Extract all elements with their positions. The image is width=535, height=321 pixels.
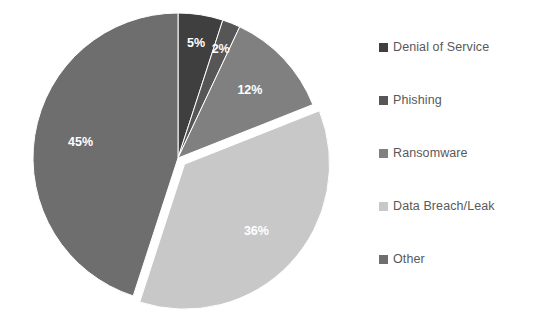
legend-item[interactable]: Data Breach/Leak bbox=[379, 197, 495, 215]
pie-slice-value-label: 12% bbox=[237, 83, 262, 97]
pie-slices-group bbox=[33, 13, 330, 309]
pie-slice-value-label: 2% bbox=[212, 42, 230, 56]
legend-swatch-denial-of-service bbox=[379, 43, 388, 52]
legend-swatch-phishing bbox=[379, 96, 388, 105]
legend-item[interactable]: Other bbox=[379, 250, 425, 268]
legend-item[interactable]: Denial of Service bbox=[379, 38, 489, 56]
legend-item-label: Ransomware bbox=[393, 146, 468, 160]
pie-slice-value-label: 45% bbox=[68, 135, 93, 149]
pie-chart-svg: 5%2%12%36%45% bbox=[0, 0, 360, 321]
legend-item-label: Denial of Service bbox=[393, 40, 489, 54]
pie-slice-value-label: 36% bbox=[244, 224, 269, 238]
pie-chart-figure: 5%2%12%36%45% Denial of ServicePhishingR… bbox=[0, 0, 535, 321]
pie-chart-plot-area: 5%2%12%36%45% bbox=[0, 0, 360, 321]
legend-item-label: Phishing bbox=[393, 93, 442, 107]
legend-item[interactable]: Ransomware bbox=[379, 144, 468, 162]
legend-swatch-data-breach-leak bbox=[379, 202, 388, 211]
legend-item-label: Other bbox=[393, 252, 425, 266]
legend-swatch-other bbox=[379, 255, 388, 264]
pie-slice-value-label: 5% bbox=[187, 36, 205, 50]
chart-legend: Denial of ServicePhishingRansomwareData … bbox=[379, 38, 535, 288]
legend-item[interactable]: Phishing bbox=[379, 91, 442, 109]
legend-swatch-ransomware bbox=[379, 149, 388, 158]
legend-item-label: Data Breach/Leak bbox=[393, 199, 495, 213]
